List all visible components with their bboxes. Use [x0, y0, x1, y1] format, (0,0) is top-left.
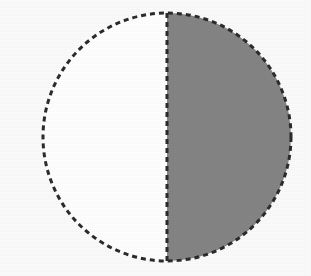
half-disc-figure	[0, 0, 311, 276]
diagram-canvas: ian	[0, 0, 311, 276]
